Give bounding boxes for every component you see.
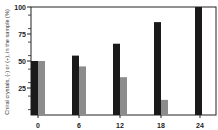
y-tick-label: 100 — [14, 4, 26, 11]
x-tick-label: 12 — [116, 122, 124, 129]
bar-18-dark — [154, 22, 161, 115]
y-tick-label: 75 — [18, 31, 26, 38]
x-tick-label: 18 — [157, 122, 165, 129]
bar-24-dark — [195, 7, 202, 115]
bar-6-gray — [79, 66, 86, 115]
y-axis-label: Chiral crystals, (-) or (+), in the samp… — [4, 9, 10, 115]
bar-0-dark — [31, 61, 38, 115]
bar-6-dark — [72, 56, 79, 115]
y-tick-label: 25 — [18, 85, 26, 92]
bar-12-dark — [113, 44, 120, 115]
y-tick-label: 50 — [18, 58, 26, 65]
bar-chart: 255075100 06121824 Chiral crystals, (-) … — [0, 0, 218, 130]
bar-12-gray — [120, 77, 127, 115]
x-tick-label: 24 — [196, 122, 204, 129]
x-tick-label: 6 — [77, 122, 81, 129]
x-tick-label: 0 — [36, 122, 40, 129]
bar-0-gray — [38, 61, 45, 115]
bar-18-gray — [161, 100, 168, 115]
